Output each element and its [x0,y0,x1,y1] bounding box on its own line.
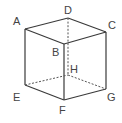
vertex-label-g: G [107,91,116,103]
vertex-label-b: B [52,46,59,58]
vertex-label-a: A [13,15,21,27]
vertex-label-f: F [59,104,66,116]
vertex-label-d: D [64,4,72,16]
edge-fg [64,89,106,100]
visible-edges [25,18,106,100]
vertex-label-c: C [108,19,116,31]
edge-hg [68,75,106,89]
vertex-label-h: H [70,63,78,75]
edge-cd [68,18,106,32]
edge-bc [64,32,106,44]
edge-da [25,18,68,29]
edge-ef [25,85,64,100]
vertex-label-e: E [13,91,20,103]
edge-eh [25,75,68,85]
hidden-edges [25,18,106,89]
edge-ab [25,29,64,44]
cube-diagram: A B C D E F G H [0,0,122,123]
